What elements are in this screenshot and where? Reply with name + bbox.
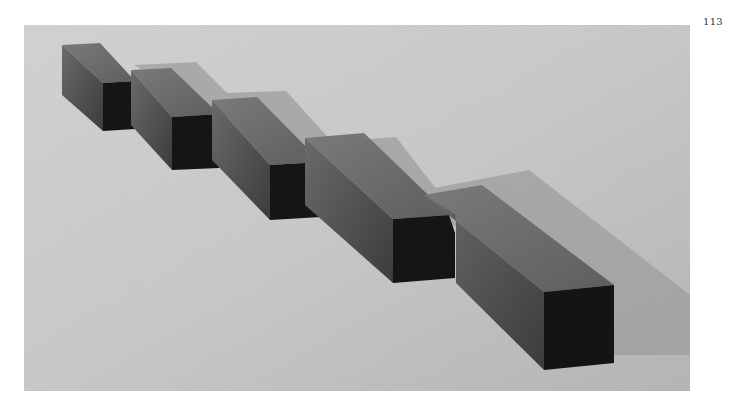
sculpture-photograph xyxy=(24,25,690,391)
page-number: 113 xyxy=(703,16,723,27)
